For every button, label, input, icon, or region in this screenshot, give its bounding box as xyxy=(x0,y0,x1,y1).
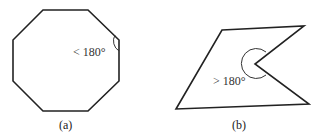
angle-label-a: < 180° xyxy=(73,45,106,59)
concave-polygon-shape xyxy=(176,26,309,109)
caption-b: (b) xyxy=(232,118,246,132)
diagram-canvas: < 180° (a) > 180° (b) xyxy=(0,0,320,140)
figure-a: < 180° (a) xyxy=(13,10,119,132)
angle-label-b: > 180° xyxy=(213,74,246,88)
octagon-shape xyxy=(13,10,119,111)
caption-a: (a) xyxy=(59,118,72,132)
figure-b: > 180° (b) xyxy=(176,26,309,132)
